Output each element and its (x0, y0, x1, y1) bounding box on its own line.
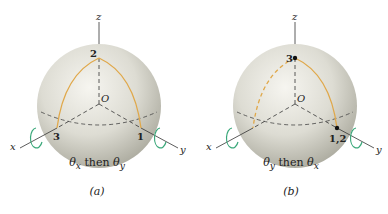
caption: θy then θx (194, 156, 388, 171)
point-marker (293, 56, 297, 60)
caption: θx then θy (0, 156, 194, 171)
point-label: 2 (90, 48, 97, 59)
sphere-diagram-b: z O x y 3 1,2 (194, 0, 388, 214)
point-label: 3 (286, 53, 293, 64)
rotation-arrow-icon (227, 128, 238, 148)
x-label: x (10, 141, 16, 152)
sublabel: (a) (0, 185, 194, 198)
point-label: 1,2 (329, 133, 346, 145)
point-label: 1 (137, 131, 144, 142)
sublabel: (b) (194, 185, 388, 198)
sphere-diagram-a: z O x y 2 3 1 (0, 0, 194, 214)
origin-label: O (101, 93, 109, 104)
point-label: 3 (53, 131, 60, 142)
y-label: y (179, 144, 186, 155)
z-label: z (291, 11, 298, 22)
panel-b: z O x y 3 1,2 θy then θx (b) (194, 0, 388, 214)
x-label: x (206, 141, 212, 152)
sphere (233, 44, 357, 168)
sphere (37, 44, 161, 168)
panel-a: z O x y 2 3 1 θx then θy (a) (0, 0, 194, 214)
y-label: y (375, 144, 382, 155)
z-label: z (95, 11, 102, 22)
rotation-arrow-icon (31, 128, 42, 148)
origin-label: O (297, 93, 305, 104)
point-marker (335, 126, 339, 130)
